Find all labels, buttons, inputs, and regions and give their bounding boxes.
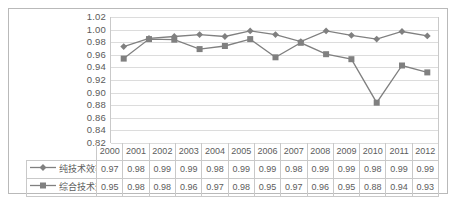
table-cell-value: 0.95: [97, 179, 123, 197]
y-tick-label: 0.98: [87, 37, 106, 47]
table-cell-value: 0.99: [228, 161, 254, 179]
y-tick-label: 0.86: [87, 113, 106, 123]
x-category-label: 2006: [254, 143, 280, 161]
data-point-marker: [247, 28, 254, 35]
table-row-years: 2000200120022003200420052006200720082009…: [27, 143, 439, 161]
x-category-label: 2011: [386, 143, 412, 161]
legend-diamond-marker-icon: [30, 161, 56, 178]
data-point-marker: [323, 51, 329, 57]
series-line: [124, 39, 428, 103]
table-cell-value: 0.99: [307, 161, 333, 179]
table-cell-value: 0.99: [333, 161, 359, 179]
figure-caption: [0, 200, 456, 213]
data-point-marker: [171, 37, 177, 43]
legend-header-blank: [27, 143, 97, 161]
data-point-marker: [424, 33, 431, 40]
table-cell-value: 0.98: [202, 161, 228, 179]
legend-entry[interactable]: 纯技术效率: [27, 161, 97, 179]
data-point-marker: [121, 56, 127, 62]
table-cell-value: 0.97: [281, 179, 307, 197]
x-category-label: 2010: [360, 143, 386, 161]
table-cell-value: 0.98: [281, 161, 307, 179]
table-cell-value: 0.99: [176, 161, 202, 179]
y-tick-label: 1.02: [87, 12, 106, 22]
table-row: 纯技术效率0.970.980.990.990.980.990.990.980.9…: [27, 161, 439, 179]
table-cell-value: 0.93: [412, 179, 438, 197]
plot-area-wrapper: 1.021.000.980.960.940.920.900.880.860.84…: [110, 17, 439, 143]
data-point-marker: [222, 43, 228, 49]
plot-area: [110, 17, 439, 143]
x-category-label: 2009: [333, 143, 359, 161]
table-row: 综合技术效率0.950.980.980.960.970.980.950.970.…: [27, 179, 439, 197]
x-category-label: 2002: [149, 143, 175, 161]
data-point-marker: [348, 32, 355, 39]
data-point-marker: [146, 36, 152, 42]
y-tick-label: 0.88: [87, 100, 106, 110]
legend-label: 综合技术效率: [59, 182, 97, 192]
table-cell-value: 0.96: [176, 179, 202, 197]
y-axis-tick-labels: 1.021.000.980.960.940.920.900.880.860.84…: [50, 17, 106, 143]
series-layer: [111, 17, 440, 143]
table-cell-value: 0.95: [333, 179, 359, 197]
data-point-marker: [323, 28, 330, 35]
legend-label: 纯技术效率: [59, 164, 97, 174]
table-cell-value: 0.95: [254, 179, 280, 197]
table-cell-value: 0.88: [360, 179, 386, 197]
data-point-marker: [273, 54, 279, 60]
data-point-marker: [247, 36, 253, 42]
table-cell-value: 0.99: [386, 161, 412, 179]
data-point-marker: [197, 46, 203, 52]
legend-entry[interactable]: 综合技术效率: [27, 179, 97, 197]
data-point-marker: [399, 63, 405, 69]
table-cell-value: 0.98: [123, 161, 149, 179]
data-point-marker: [373, 36, 380, 43]
y-tick-label: 0.92: [87, 75, 106, 85]
y-tick-label: 0.96: [87, 50, 106, 60]
x-category-label: 2012: [412, 143, 438, 161]
x-category-label: 2000: [97, 143, 123, 161]
table-cell-value: 0.99: [412, 161, 438, 179]
x-category-label: 2008: [307, 143, 333, 161]
chart-frame: 1.021.000.980.960.940.920.900.880.860.84…: [8, 8, 448, 194]
data-point-marker: [348, 56, 354, 62]
x-category-label: 2004: [202, 143, 228, 161]
data-point-marker: [399, 28, 406, 35]
x-category-label: 2003: [176, 143, 202, 161]
table-cell-value: 0.97: [97, 161, 123, 179]
table-cell-value: 0.94: [386, 179, 412, 197]
data-point-marker: [424, 69, 430, 75]
data-point-marker: [298, 40, 304, 46]
x-category-label: 2001: [123, 143, 149, 161]
data-point-marker: [272, 31, 279, 38]
y-tick-label: 0.94: [87, 63, 106, 73]
table-cell-value: 0.98: [149, 179, 175, 197]
table-cell-value: 0.97: [202, 179, 228, 197]
x-category-label: 2005: [228, 143, 254, 161]
table-cell-value: 0.99: [254, 161, 280, 179]
data-table: 2000200120022003200420052006200720082009…: [26, 143, 439, 197]
table-cell-value: 0.98: [123, 179, 149, 197]
data-point-marker: [196, 31, 203, 38]
table-cell-value: 0.99: [149, 161, 175, 179]
data-point-marker: [120, 43, 127, 50]
table-cell-value: 0.96: [307, 179, 333, 197]
chart-screenshot: 1.021.000.980.960.940.920.900.880.860.84…: [0, 0, 456, 213]
x-category-label: 2007: [281, 143, 307, 161]
y-tick-label: 0.90: [87, 88, 106, 98]
data-point-marker: [374, 100, 380, 106]
table-cell-value: 0.98: [228, 179, 254, 197]
y-tick-label: 0.84: [87, 126, 106, 136]
data-point-marker: [222, 33, 229, 40]
legend-square-marker-icon: [30, 179, 56, 196]
y-tick-label: 1.00: [87, 25, 106, 35]
table-cell-value: 0.98: [360, 161, 386, 179]
